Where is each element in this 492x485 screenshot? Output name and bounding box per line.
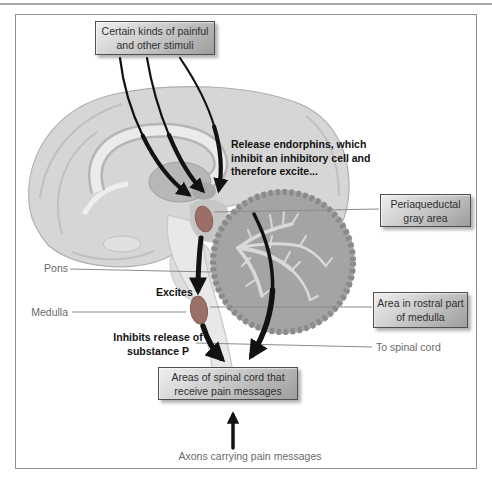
release-endorphins-line3: therefore excite... <box>231 165 383 179</box>
hippocampus <box>103 236 141 252</box>
brain-illustration <box>0 0 492 485</box>
periaqueductal-box: Periaqueductal gray area <box>380 194 471 227</box>
medulla-label: Medulla <box>14 306 68 318</box>
inhibits-note-line1: Inhibits release of <box>103 331 213 345</box>
release-endorphins-note: Release endorphins, which inhibit an inh… <box>231 138 383 179</box>
inhibits-note-line2: substance P <box>103 345 213 359</box>
release-endorphins-line1: Release endorphins, which <box>231 138 383 152</box>
stimuli-box-line1: Certain kinds of painful <box>102 24 209 38</box>
rostral-medulla-box: Area in rostral part of medulla <box>373 292 468 328</box>
axons-label: Axons carrying pain messages <box>140 450 360 462</box>
spinal-cord-box-line2: receive pain messages <box>174 384 281 398</box>
rostral-medulla-box-line1: Area in rostral part <box>377 296 463 310</box>
figure-pain-pathway: Certain kinds of painful and other stimu… <box>0 0 492 485</box>
pons-label: Pons <box>18 262 68 274</box>
release-endorphins-line2: inhibit an inhibitory cell and <box>231 152 383 166</box>
rostral-medulla-box-line2: of medulla <box>396 310 444 324</box>
stimuli-box: Certain kinds of painful and other stimu… <box>95 21 215 55</box>
periaqueductal-box-line2: gray area <box>403 211 447 225</box>
to-spinal-cord-label: To spinal cord <box>376 341 441 353</box>
excites-note: Excites <box>156 286 193 300</box>
inhibits-note: Inhibits release of substance P <box>103 331 213 358</box>
periaqueductal-box-line1: Periaqueductal <box>390 197 460 211</box>
excites-arrow <box>198 238 201 290</box>
spinal-cord-box-line1: Areas of spinal cord that <box>171 370 284 384</box>
spinal-cord-box: Areas of spinal cord that receive pain m… <box>158 367 298 400</box>
stimuli-box-line2: and other stimuli <box>116 38 193 52</box>
